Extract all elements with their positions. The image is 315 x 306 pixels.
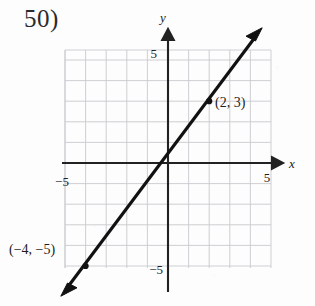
x-tick-label-negative-5: −5 (55, 174, 69, 189)
x-axis-arrowhead (272, 157, 283, 169)
coordinate-plane: y x −5 5 5 −5 (2, 3) (−4, −5) (0, 0, 315, 306)
figure-page: 50) (0, 0, 315, 306)
point-marker-neg4-neg5 (83, 263, 89, 269)
x-axis-label: x (288, 156, 295, 171)
point-marker-2-3 (206, 98, 212, 104)
y-tick-label-positive-5: 5 (151, 46, 158, 61)
point-label-neg4-neg5: (−4, −5) (9, 242, 55, 258)
line-arrowhead-lower (61, 283, 77, 296)
point-label-2-3: (2, 3) (215, 95, 246, 111)
y-tick-label-negative-5: −5 (149, 262, 163, 277)
x-tick-label-positive-5: 5 (264, 170, 271, 185)
y-axis-label: y (158, 10, 166, 25)
line-arrowhead-upper (246, 28, 262, 41)
y-axis-arrowhead (162, 29, 174, 40)
